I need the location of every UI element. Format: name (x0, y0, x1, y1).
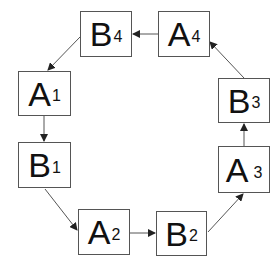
node-a3: A3 (218, 146, 270, 193)
node-a1: A1 (18, 71, 71, 116)
node-subscript: 2 (111, 227, 120, 243)
node-b1: B1 (18, 142, 71, 188)
node-subscript: 4 (191, 29, 200, 45)
edge-b4-a1 (48, 37, 80, 70)
node-b4: B4 (80, 11, 132, 57)
node-subscript: 2 (189, 228, 198, 244)
node-letter: B (165, 217, 188, 251)
node-letter: A (168, 17, 191, 51)
edge-b1-a2 (45, 189, 77, 230)
node-a2: A2 (78, 209, 130, 255)
node-letter: B (28, 148, 51, 182)
node-letter: B (228, 84, 251, 118)
node-subscript: 1 (52, 88, 61, 104)
edge-b3-a4 (210, 42, 244, 78)
node-a4: A4 (158, 11, 210, 57)
node-b3: B3 (218, 78, 270, 123)
node-letter: A (226, 153, 249, 187)
node-letter: A (88, 215, 111, 249)
node-letter: B (90, 17, 113, 51)
node-subscript: 3 (251, 95, 260, 111)
edges-layer (0, 0, 280, 267)
node-subscript: 4 (113, 29, 122, 45)
edge-b2-a3 (208, 194, 243, 232)
node-subscript: 3 (253, 165, 262, 181)
node-letter: A (28, 77, 51, 111)
node-subscript: 1 (52, 160, 61, 176)
node-b2: B2 (156, 211, 207, 256)
